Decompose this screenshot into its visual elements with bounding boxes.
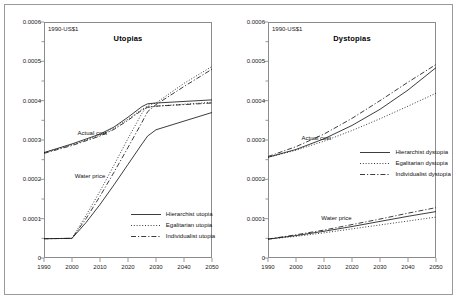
series-line	[44, 100, 212, 153]
panel-title-utopias: Utopias	[44, 34, 212, 43]
annotation-water-price-right: Water price	[321, 215, 351, 221]
legend-item-label: Hierarchist utopia	[166, 209, 213, 220]
legend-item: Egalitarian dystopia	[360, 158, 450, 169]
x-axis-labels-left: 1990200020102020203020402050	[44, 264, 212, 278]
legend-line-swatch	[360, 152, 390, 153]
annotation-water-price-left: Water price	[75, 173, 105, 179]
legend-line-swatch	[360, 174, 390, 175]
series-line	[268, 212, 436, 240]
x-axis-tick-label: 1990	[37, 264, 50, 270]
y-axis-tick-label: 0.0002	[23, 176, 41, 182]
y-axis-tick-label: 0.0005	[23, 58, 41, 64]
legend-item: Hierarchist utopia	[131, 209, 215, 220]
legend-item: Egalitarian utopia	[131, 220, 215, 231]
x-axis-tick-label: 2020	[345, 264, 358, 270]
legend-item-label: Individualist dystopia	[395, 169, 450, 180]
legend-item-label: Egalitarian utopia	[166, 220, 212, 231]
x-axis-tick-label: 2030	[149, 264, 162, 270]
chart-panel-dystopias: 00.00010.00020.00030.00040.00050.0006 19…	[232, 12, 449, 287]
legend-item: Individualist dystopia	[360, 169, 450, 180]
x-axis-tick-label: 2010	[317, 264, 330, 270]
y-axis-tick-label: 0.0004	[23, 98, 41, 104]
series-line	[268, 68, 436, 158]
legend-line-swatch	[360, 163, 390, 164]
y-axis-labels-left: 00.00010.00020.00030.00040.00050.0006	[8, 22, 41, 258]
legend-item-label: Egalitarian dystopia	[395, 158, 447, 169]
legend-dystopias: Hierarchist dystopiaEgalitarian dystopia…	[360, 147, 450, 180]
unit-label-left: 1990-US$1	[48, 26, 78, 32]
legend-item: Hierarchist dystopia	[360, 147, 450, 158]
x-axis-tick-label: 2000	[289, 264, 302, 270]
y-axis-tick-label: 0.0002	[247, 176, 265, 182]
legend-line-swatch	[131, 225, 161, 226]
unit-label-right: 1990-US$1	[272, 26, 302, 32]
y-axis-tick-label: 0.0003	[23, 137, 41, 143]
y-axis-tick-label: 0.0006	[23, 19, 41, 25]
x-axis-tick-label: 2050	[429, 264, 442, 270]
y-axis-tick-label: 0.0005	[247, 58, 265, 64]
annotation-actual-cost-left: Actual cost	[78, 130, 107, 136]
x-axis-tick-label: 1990	[261, 264, 274, 270]
y-axis-tick-label: 0.0006	[247, 19, 265, 25]
legend-line-swatch	[131, 236, 161, 237]
figure-root: 00.00010.00020.00030.00040.00050.0006 19…	[0, 0, 457, 299]
x-axis-tick-label: 2010	[93, 264, 106, 270]
series-line	[268, 64, 436, 156]
y-axis-tick-label: 0	[262, 255, 265, 261]
x-axis-tick-label: 2030	[373, 264, 386, 270]
y-axis-tick-label: 0.0001	[23, 216, 41, 222]
annotation-actual-cost-right: Actual cost	[302, 135, 331, 141]
panel-title-dystopias: Dystopias	[268, 34, 436, 43]
y-axis-tick-label: 0.0001	[247, 216, 265, 222]
legend-item-label: Hierarchist dystopia	[395, 147, 448, 158]
y-axis-labels-right: 00.00010.00020.00030.00040.00050.0006	[232, 22, 265, 258]
legend-utopias: Hierarchist utopiaEgalitarian utopiaIndi…	[131, 209, 215, 242]
x-axis-tick-label: 2000	[65, 264, 78, 270]
legend-item-label: Individualist utopia	[166, 231, 215, 242]
series-line	[268, 208, 436, 239]
x-axis-labels-right: 1990200020102020203020402050	[268, 264, 436, 278]
x-axis-tick-label: 2040	[401, 264, 414, 270]
x-axis-tick-label: 2020	[121, 264, 134, 270]
chart-panel-utopias: 00.00010.00020.00030.00040.00050.0006 19…	[8, 12, 225, 287]
x-axis-tick-label: 2050	[205, 264, 218, 270]
x-axis-tick-label: 2040	[177, 264, 190, 270]
legend-line-swatch	[131, 214, 161, 215]
legend-item: Individualist utopia	[131, 231, 215, 242]
plot-lines-dystopias	[268, 22, 436, 258]
y-axis-tick-label: 0.0003	[247, 137, 265, 143]
y-axis-tick-label: 0	[38, 255, 41, 261]
y-axis-tick-label: 0.0004	[247, 98, 265, 104]
